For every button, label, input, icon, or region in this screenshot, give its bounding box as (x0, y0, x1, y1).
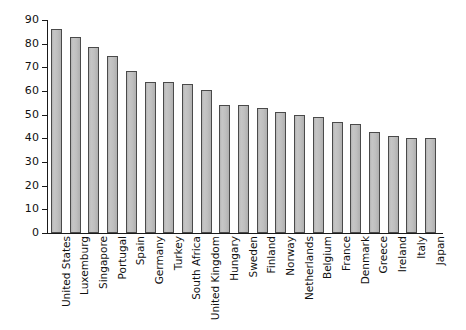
bar (182, 84, 193, 233)
bar-chart: 9080706050403020100 United StatesLuxembu… (0, 0, 466, 330)
bar (51, 29, 62, 233)
bar (388, 136, 399, 233)
y-axis-tick-label: 50 (0, 109, 39, 120)
y-axis-tick-label: 30 (0, 156, 39, 167)
x-axis-label-text: Finland (266, 236, 277, 274)
x-axis-category-labels: United StatesLuxemburgSingaporePortugalS… (47, 236, 443, 330)
x-axis-label-text: Singapore (98, 236, 109, 289)
x-axis-label: Denmark (360, 236, 371, 284)
x-axis-label-text: Denmark (360, 236, 371, 284)
y-axis-tick-label: 60 (0, 85, 39, 96)
bar (88, 47, 99, 233)
x-axis-label: Germany (154, 236, 165, 284)
x-axis-label: United Kingdom (210, 236, 221, 320)
x-axis-label: Belgium (322, 236, 333, 279)
bar (313, 117, 324, 233)
bar (294, 115, 305, 233)
x-axis-label: France (341, 236, 352, 271)
y-axis-tick-label: 40 (0, 132, 39, 143)
x-axis-label: Hungary (229, 236, 240, 281)
bar (257, 108, 268, 233)
x-axis-label: Norway (285, 236, 296, 276)
x-axis-label-text: Germany (154, 236, 165, 284)
x-axis-label-text: Spain (135, 236, 146, 265)
x-axis-label-text: Hungary (229, 236, 240, 281)
y-axis-tick-label: 80 (0, 38, 39, 49)
x-axis-label-text: Turkey (173, 236, 184, 270)
x-axis-label: United States (61, 236, 72, 307)
x-axis-label-text: France (341, 236, 352, 271)
x-axis-label: Sweden (248, 236, 259, 278)
bar (350, 124, 361, 233)
y-axis-tick-label: 0 (0, 227, 39, 238)
y-axis-tick-label: 70 (0, 61, 39, 72)
bar (201, 90, 212, 233)
x-axis-label-text: Sweden (248, 236, 259, 278)
x-axis-label-text: Norway (285, 236, 296, 276)
x-axis-label-text: Japan (435, 236, 446, 265)
x-axis-label: Singapore (98, 236, 109, 289)
x-axis-label: Finland (266, 236, 277, 274)
x-axis-label: Greece (378, 236, 389, 273)
x-axis-label-text: Portugal (117, 236, 128, 280)
x-axis-label-text: Ireland (397, 236, 408, 272)
bar (275, 112, 286, 233)
y-axis-tick-label: 10 (0, 203, 39, 214)
x-axis-label-text: Belgium (322, 236, 333, 279)
bar (126, 71, 137, 233)
x-axis-label: Italy (416, 236, 427, 259)
x-axis-label: South Africa (191, 236, 202, 300)
plot-area (47, 20, 443, 233)
x-axis-line (47, 233, 443, 234)
y-axis-tick-labels: 9080706050403020100 (0, 0, 39, 330)
bar (107, 56, 118, 234)
x-axis-label-text: Luxemburg (79, 236, 90, 295)
bar (369, 132, 380, 233)
x-axis-label: Portugal (117, 236, 128, 280)
x-axis-label-text: Italy (416, 236, 427, 259)
x-axis-label: Turkey (173, 236, 184, 270)
x-axis-label: Netherlands (304, 236, 315, 300)
x-axis-label: Japan (435, 236, 446, 265)
x-axis-label-text: United Kingdom (210, 236, 221, 320)
x-axis-label-text: United States (61, 236, 72, 307)
y-axis-tick-label: 20 (0, 180, 39, 191)
y-axis-tick-label: 90 (0, 14, 39, 25)
bar (238, 105, 249, 234)
bar (406, 138, 417, 233)
bar (163, 82, 174, 233)
bar (145, 82, 156, 233)
bar (70, 37, 81, 233)
bar (332, 122, 343, 233)
x-axis-label: Luxemburg (79, 236, 90, 295)
x-axis-label-text: South Africa (191, 236, 202, 300)
bar (425, 138, 436, 233)
bar (219, 105, 230, 234)
x-axis-label: Ireland (397, 236, 408, 272)
x-axis-label: Spain (135, 236, 146, 265)
x-axis-label-text: Netherlands (304, 236, 315, 300)
x-axis-label-text: Greece (378, 236, 389, 273)
